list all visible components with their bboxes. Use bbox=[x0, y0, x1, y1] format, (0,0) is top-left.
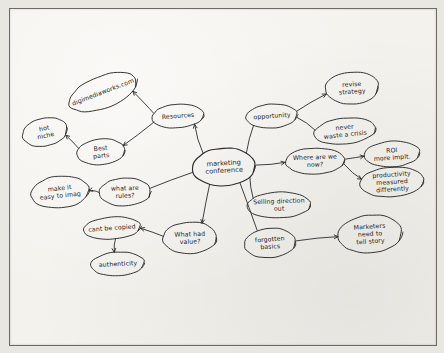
node-label-line: opportunity bbox=[253, 110, 291, 121]
node-label-line: strategy bbox=[339, 86, 366, 96]
node-label-line: now? bbox=[307, 160, 324, 168]
node-selling[interactable]: Selling directionout bbox=[247, 192, 310, 218]
node-label-opportunity: opportunity bbox=[253, 110, 291, 121]
node-hotniche[interactable]: hotniche bbox=[22, 118, 67, 147]
edge-resources-to-bestparts bbox=[123, 122, 154, 146]
node-label-line: parts bbox=[93, 151, 110, 160]
edge-whatvalue-to-cantcopy bbox=[141, 228, 164, 236]
node-label-line: more implt. bbox=[374, 152, 411, 163]
node-label-roi: ROImore implt. bbox=[373, 145, 411, 163]
node-digimedia[interactable]: digimediaworks.com bbox=[69, 72, 138, 112]
node-label-line: basics bbox=[260, 242, 280, 250]
node-label-authenticity: authenticity bbox=[99, 259, 138, 269]
node-label-line: rules? bbox=[115, 191, 134, 199]
node-label-resources: Resources bbox=[161, 111, 194, 120]
node-center[interactable]: marketingconference bbox=[193, 148, 256, 186]
node-whatrules[interactable]: what arerules? bbox=[99, 178, 151, 206]
node-label-line: conference bbox=[205, 166, 243, 176]
node-roi[interactable]: ROImore implt. bbox=[364, 141, 419, 167]
node-label-bestparts: Bestparts bbox=[92, 143, 110, 160]
node-label-line: tell story bbox=[356, 236, 385, 246]
edge-opportunity-to-revise bbox=[297, 94, 327, 111]
edge-center-to-forgotten bbox=[240, 183, 257, 231]
node-resources[interactable]: Resources bbox=[152, 104, 204, 128]
node-forgotten[interactable]: forgottenbasics bbox=[245, 228, 296, 257]
node-label-line: waste a crisis bbox=[323, 128, 367, 139]
node-productivity[interactable]: productivitymeasureddifferently bbox=[360, 167, 424, 197]
node-label-line: What had bbox=[174, 229, 205, 237]
node-label-productivity: productivitymeasureddifferently bbox=[372, 169, 412, 194]
node-cantcopy[interactable]: cant be copied bbox=[84, 217, 142, 240]
node-opportunity[interactable]: opportunity bbox=[246, 104, 299, 128]
node-label-makeiteasy: make iteasy to imag bbox=[39, 182, 82, 202]
node-label-nevercrisis: neverwaste a crisis bbox=[323, 121, 368, 140]
node-label-whatrules: what arerules? bbox=[111, 184, 140, 199]
screenshot-canvas: marketingconferenceResourcesdigimediawor… bbox=[0, 0, 444, 353]
edge-center-to-whatvalue bbox=[202, 185, 210, 224]
node-label-revise: revisestrategy bbox=[338, 79, 366, 96]
node-label-line: cant be copied bbox=[88, 222, 136, 233]
edge-center-to-selling bbox=[250, 177, 253, 198]
node-label-marketers: Marketersneed totell story bbox=[353, 221, 386, 246]
edge-center-to-opportunity bbox=[246, 126, 253, 153]
edge-wherenow-to-productivity bbox=[344, 164, 362, 179]
node-label-whatvalue: What hadvalue? bbox=[174, 229, 205, 244]
edge-opportunity-to-nevercrisis bbox=[297, 118, 315, 131]
node-label-line: easy to imag bbox=[39, 189, 81, 201]
edge-center-to-resources bbox=[195, 124, 204, 153]
mind-map-diagram: marketingconferenceResourcesdigimediawor… bbox=[0, 0, 444, 353]
node-label-wherenow: Where are wenow? bbox=[293, 152, 338, 168]
node-label-hotniche: hotniche bbox=[35, 122, 55, 140]
node-label-digimedia: digimediaworks.com bbox=[71, 76, 135, 107]
node-makeiteasy[interactable]: make iteasy to imag bbox=[31, 176, 90, 208]
edge-forgotten-to-marketers bbox=[296, 237, 338, 241]
node-label-line: what are bbox=[111, 184, 139, 192]
edge-center-to-whatrules bbox=[150, 172, 193, 188]
node-label-line: authenticity bbox=[99, 259, 138, 269]
node-wherenow[interactable]: Where are wenow? bbox=[286, 148, 345, 174]
node-bestparts[interactable]: Bestparts bbox=[77, 139, 126, 165]
edge-bestparts-to-hotniche bbox=[66, 135, 79, 148]
edge-resources-to-digimedia bbox=[133, 91, 154, 113]
node-layer: marketingconferenceResourcesdigimediawor… bbox=[22, 72, 424, 276]
node-whatvalue[interactable]: What hadvalue? bbox=[163, 222, 217, 254]
node-label-line: Resources bbox=[161, 111, 194, 120]
node-label-line: out bbox=[274, 204, 285, 211]
node-marketers[interactable]: Marketersneed totell story bbox=[338, 215, 403, 253]
node-label-selling: Selling directionout bbox=[253, 196, 305, 212]
node-nevercrisis[interactable]: neverwaste a crisis bbox=[314, 118, 376, 144]
node-label-line: digimediaworks.com bbox=[71, 76, 135, 107]
node-label-line: value? bbox=[180, 237, 201, 245]
edge-center-to-wherenow bbox=[256, 162, 285, 165]
node-label-line: differently bbox=[376, 184, 410, 194]
node-label-center: marketingconference bbox=[205, 158, 243, 175]
node-authenticity[interactable]: authenticity bbox=[91, 252, 145, 276]
node-label-forgotten: forgottenbasics bbox=[255, 234, 286, 250]
node-revise[interactable]: revisestrategy bbox=[325, 72, 378, 104]
node-label-cantcopy: cant be copied bbox=[88, 222, 136, 233]
